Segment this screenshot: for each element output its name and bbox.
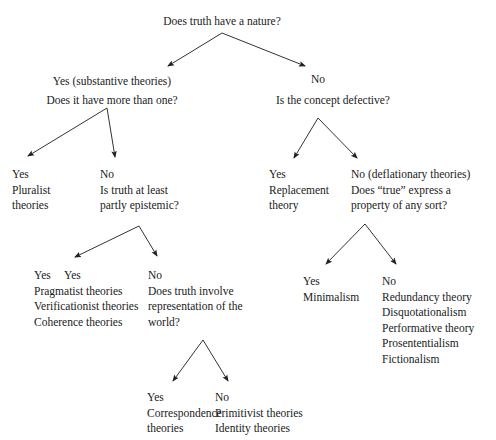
tree-arrow-defective-to-yes [294, 118, 318, 158]
tree-arrow-root-to-no [222, 33, 305, 66]
tree-node-concept-defective-question: Is the concept defective? [276, 93, 390, 109]
tree-arrow-representation-to-yes [173, 340, 203, 381]
tree-node-yes-pragmatist-list: Yes Pragmatist theories Verificationist … [34, 268, 138, 330]
tree-node-yes-correspondence: Yes Correspondence theories [147, 390, 222, 437]
arrow-layer [0, 0, 496, 440]
tree-node-no-deflationary-question: No (deflationary theories) Does “true” e… [351, 167, 470, 214]
tree-arrow-epistemic-to-no [139, 226, 157, 256]
tree-arrow-representation-to-no [203, 340, 228, 381]
tree-node-no-primitivist-list: No Primitivist theories Identity theorie… [215, 390, 303, 437]
tree-node-no-representation-question: No Does truth involve representation of … [148, 268, 243, 330]
tree-node-no-epistemic-question: No Is truth at least partly epistemic? [100, 167, 179, 214]
tree-arrow-defective-to-no [318, 118, 357, 158]
tree-node-yes-pragmatist-branch-label: Yes [64, 268, 81, 284]
tree-node-no-label-top: No [311, 72, 325, 88]
tree-node-more-than-one-question: Does it have more than one? [0, 93, 224, 109]
truth-theories-decision-tree: Does truth have a nature?Yes (substantiv… [0, 0, 496, 440]
tree-node-yes-substantive-label: Yes (substantive theories) [0, 74, 224, 90]
tree-node-yes-pluralist: Yes Pluralist theories [12, 167, 50, 214]
tree-node-yes-replacement: Yes Replacement theory [269, 167, 329, 214]
tree-arrow-property-to-no [365, 224, 396, 264]
tree-arrow-root-to-yes [168, 33, 222, 66]
tree-arrow-morethanone-to-no [107, 108, 115, 157]
tree-arrow-epistemic-to-yes [75, 226, 139, 257]
tree-arrow-morethanone-to-yes [28, 108, 107, 156]
tree-node-no-deflationary-list: No Redundancy theory Disquotationalism P… [382, 274, 474, 367]
tree-arrow-property-to-yes [326, 224, 365, 264]
tree-node-root-question: Does truth have a nature? [0, 14, 444, 30]
tree-node-yes-minimalism: Yes Minimalism [303, 274, 359, 305]
